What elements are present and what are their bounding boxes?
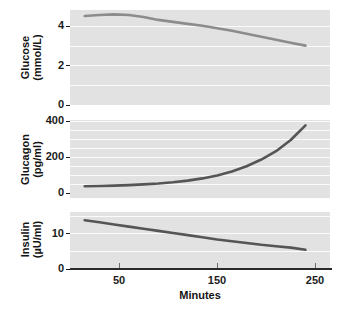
axis-title-insulin-line1: Insulin — [20, 195, 32, 285]
panel-glucagon: 400 200 0 — [0, 120, 353, 198]
ytick-mark — [66, 26, 70, 27]
ytick-mark — [66, 157, 70, 158]
xtick-label-50: 50 — [99, 274, 139, 286]
ytick-mark — [66, 105, 70, 106]
axis-title-glucagon: Glucagon (pg/ml) — [20, 115, 43, 205]
panel-glucose: 4 2 0 — [0, 10, 353, 105]
panel-insulin: 10 0 — [0, 212, 353, 269]
glucagon-curve — [70, 120, 330, 198]
x-axis-title: Minutes — [70, 289, 330, 301]
plot-area-glucagon — [70, 120, 330, 198]
ytick-mark — [66, 65, 70, 66]
insulin-curve — [70, 212, 330, 269]
axis-title-insulin: Insulin (µU/ml) — [20, 195, 43, 285]
axis-title-glucose-line2: (mmol/L) — [31, 13, 43, 103]
axis-title-glucose: Glucose (mmol/L) — [20, 13, 43, 103]
axis-title-glucagon-line1: Glucagon — [20, 115, 32, 205]
xtick-mark-50 — [119, 263, 120, 268]
glucose-curve — [70, 10, 330, 105]
xtick-label-150: 150 — [197, 274, 237, 286]
plot-area-insulin — [70, 212, 330, 269]
plot-area-glucose — [70, 10, 330, 105]
xtick-mark-150 — [217, 263, 218, 268]
xtick-mark-250 — [315, 263, 316, 268]
xtick-label-250: 250 — [295, 274, 335, 286]
ytick-mark — [66, 121, 70, 122]
figure-root: 4 2 0 Glucose (mmol/L) 400 200 0 — [0, 0, 353, 309]
axis-title-glucagon-line2: (pg/ml) — [31, 115, 43, 205]
ytick-mark — [66, 193, 70, 194]
ytick-mark — [66, 233, 70, 234]
x-axis-line — [70, 268, 332, 270]
axis-title-insulin-line2: (µU/ml) — [31, 195, 43, 285]
axis-title-glucose-line1: Glucose — [20, 13, 32, 103]
